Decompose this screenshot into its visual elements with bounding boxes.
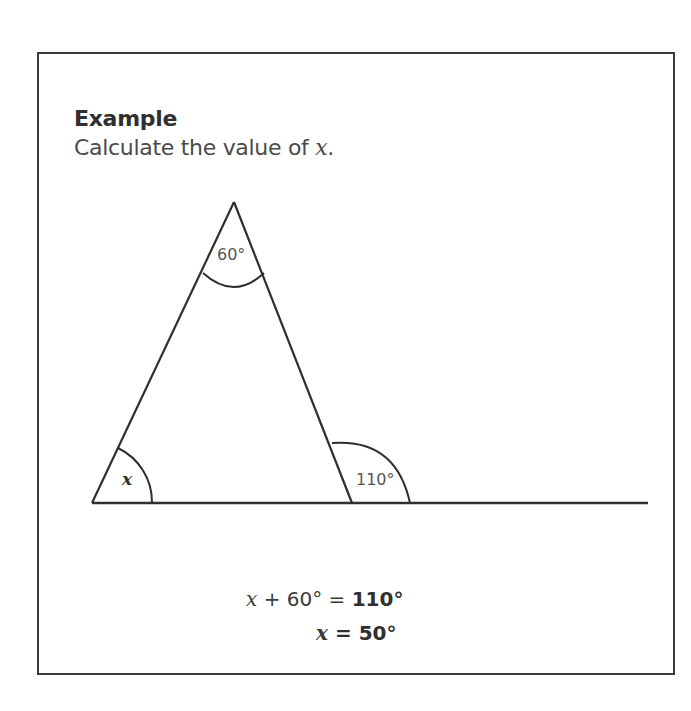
triangle-left-side <box>92 202 234 503</box>
equation-line-2: x = 50° <box>316 621 396 645</box>
equation-2-rhs: 50° <box>359 621 397 645</box>
equation-1-rhs: 110° <box>352 587 404 611</box>
apex-angle-arc <box>203 273 264 287</box>
exterior-angle-label: 110° <box>356 470 395 489</box>
triangle-right-side <box>234 202 352 503</box>
equation-2-variable: x <box>316 621 328 645</box>
apex-angle-label: 60° <box>217 245 245 264</box>
equation-line-1: x + 60° = 110° <box>246 587 403 611</box>
equation-2-equals: = <box>328 621 359 645</box>
base-left-angle-label: x <box>122 469 132 489</box>
equation-1-variable: x <box>246 587 257 611</box>
equation-1-lhs: + 60° = <box>257 587 351 611</box>
